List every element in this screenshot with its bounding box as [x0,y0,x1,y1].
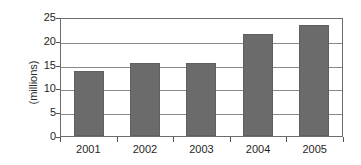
y-axis-tick-mark [56,137,60,138]
y-axis-tick-mark [56,66,60,67]
y-axis-tick-mark [56,89,60,90]
x-axis-tick-mark [173,137,174,142]
x-axis-tick-label: 2003 [173,143,229,156]
x-axis-tick-label: 2004 [230,143,286,156]
y-axis-tick-label: 15 [30,60,56,71]
y-axis-tick-label: 10 [30,83,56,94]
bar [74,71,104,136]
x-axis-tick-label: 2001 [60,143,116,156]
bar [243,34,273,136]
x-axis-tick-mark [60,137,61,142]
y-axis-tick-mark [56,113,60,114]
bar-chart: (millions) 0510152025 200120022003200420… [0,0,361,165]
x-axis-tick-mark [343,137,344,142]
y-axis-tick-label: 20 [30,36,56,47]
x-axis-tick-mark [117,137,118,142]
x-axis-tick-mark [286,137,287,142]
bar [299,25,329,136]
x-axis-tick-label: 2005 [287,143,343,156]
x-axis-tick-label: 2002 [117,143,173,156]
y-axis-tick-label-group: 0510152025 [30,0,56,165]
bar [130,63,160,136]
y-axis-tick-label: 5 [30,107,56,118]
bar [186,63,216,136]
y-axis-tick-label: 25 [30,12,56,23]
plot-area [60,18,343,137]
y-axis-tick-mark [56,18,60,19]
x-axis-tick-mark [230,137,231,142]
x-axis-tick-label-group: 20012002200320042005 [60,143,343,159]
y-axis-tick-label: 0 [30,131,56,142]
y-axis-tick-mark [56,42,60,43]
bar-series [61,19,342,136]
